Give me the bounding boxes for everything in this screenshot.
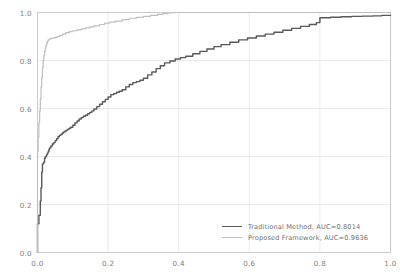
legend-entry: Traditional Method, AUC=0.8014 xyxy=(222,221,394,232)
x-tick-label: 0.0 xyxy=(31,259,43,268)
series-lines xyxy=(38,13,391,253)
x-tick-label: 0.6 xyxy=(243,259,255,268)
y-tick-label: 0.2 xyxy=(6,200,32,209)
x-tick-label: 0.4 xyxy=(173,259,185,268)
roc-curve-series-1 xyxy=(38,15,391,253)
legend-label: Proposed Framework, AUC=0.9636 xyxy=(248,234,368,242)
y-tick-label: 0.4 xyxy=(6,152,32,161)
legend-entry: Proposed Framework, AUC=0.9636 xyxy=(222,232,394,243)
y-tick-label: 0.6 xyxy=(6,104,32,113)
roc-curve-figure: 0.00.20.40.60.81.0 0.00.20.40.60.81.0 Tr… xyxy=(0,0,400,278)
x-tick-label: 0.8 xyxy=(314,259,326,268)
chart-legend: Traditional Method, AUC=0.8014Proposed F… xyxy=(222,221,394,243)
legend-line-icon xyxy=(222,237,242,238)
x-tick-label: 1.0 xyxy=(384,259,396,268)
y-tick-label: 1.0 xyxy=(6,8,32,17)
y-tick-label: 0.8 xyxy=(6,56,32,65)
x-tick-label: 0.2 xyxy=(102,259,114,268)
y-tick-label: 0.0 xyxy=(6,248,32,257)
legend-line-icon xyxy=(222,226,242,227)
legend-label: Traditional Method, AUC=0.8014 xyxy=(248,223,360,231)
